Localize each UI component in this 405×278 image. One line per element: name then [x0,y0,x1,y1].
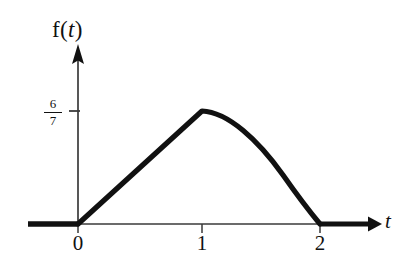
x-tick-label-2: 2 [309,233,331,254]
x-tick-label-0: 0 [67,233,89,254]
y-axis-function-label: f(t) [52,18,83,41]
function-curve-f-of-t [78,111,320,224]
fraction-numerator: 6 [44,97,62,111]
x-tick-label-1: 1 [191,233,213,254]
x-axis-arrowhead-icon [368,217,382,232]
y-axis-label-close-paren: ) [75,17,83,42]
graph-figure: f(t) t 6 7 0 1 2 [0,0,405,278]
fraction-denominator: 7 [44,114,62,128]
y-axis-label-open-paren: ( [60,17,68,42]
y-axis-label-variable: t [68,17,75,42]
x-axis-variable-label: t [385,211,391,232]
y-axis-label-function-name: f [52,17,60,42]
y-tick-label-six-sevenths: 6 7 [44,97,62,128]
